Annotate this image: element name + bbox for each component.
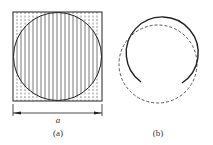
panel-b-diagram [119,17,198,103]
panel-b-caption: (b) [144,128,172,138]
solid-open-arc [126,17,198,83]
figure-canvas [0,0,213,145]
dimension-label-a: a [50,115,66,125]
circle-hatching [17,12,97,101]
panel-a-diagram [13,12,102,116]
panel-a-caption: (a) [44,128,72,138]
